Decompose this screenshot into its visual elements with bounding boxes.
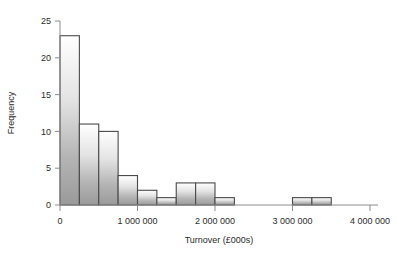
histogram-figure: 0510152025 01 000 0002 000 0003 000 0004… xyxy=(0,0,397,254)
histogram-bar xyxy=(196,183,215,205)
x-tick-label: 3 000 000 xyxy=(272,216,312,226)
y-tick-label: 15 xyxy=(41,90,51,100)
histogram-bar xyxy=(99,131,118,205)
y-tick-label: 25 xyxy=(41,16,51,26)
y-tick-label: 10 xyxy=(41,127,51,137)
histogram-bar xyxy=(293,198,312,205)
histogram-bar xyxy=(176,183,195,205)
x-tick-label: 2 000 000 xyxy=(195,216,235,226)
histogram-bar xyxy=(118,176,137,205)
histogram-bar xyxy=(60,36,79,205)
histogram-bar xyxy=(138,190,157,205)
y-tick-label: 20 xyxy=(41,53,51,63)
x-axis-ticks: 01 000 0002 000 0003 000 0004 000 000 xyxy=(57,205,390,226)
y-axis-title: Frequency xyxy=(6,91,16,134)
y-axis-ticks: 0510152025 xyxy=(41,16,60,210)
x-tick-label: 0 xyxy=(57,216,62,226)
histogram-bar xyxy=(312,198,331,205)
bars-group xyxy=(60,36,331,205)
x-tick-label: 1 000 000 xyxy=(117,216,157,226)
y-tick-label: 5 xyxy=(46,163,51,173)
histogram-bar xyxy=(157,198,176,205)
x-axis-title: Turnover (£000s) xyxy=(185,235,254,245)
y-tick-label: 0 xyxy=(46,200,51,210)
histogram-bar xyxy=(79,124,98,205)
histogram-bar xyxy=(215,198,234,205)
x-tick-label: 4 000 000 xyxy=(350,216,390,226)
histogram-canvas: 0510152025 01 000 0002 000 0003 000 0004… xyxy=(0,0,397,254)
